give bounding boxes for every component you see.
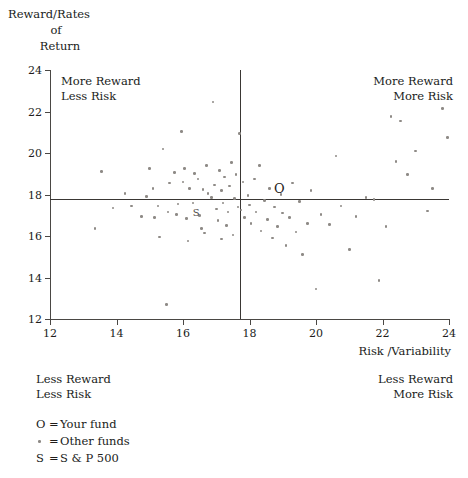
scatter-point [130, 205, 133, 208]
scatter-point [250, 222, 253, 225]
scatter-point [406, 173, 409, 176]
scatter-point [228, 185, 231, 188]
scatter-point [180, 130, 183, 133]
scatter-point [295, 231, 298, 234]
x-tick-label-18: 18 [235, 328, 265, 339]
x-tick-label-20: 20 [301, 328, 331, 339]
scatter-point [212, 101, 215, 104]
scatter-point [253, 178, 256, 181]
scatter-point [385, 225, 388, 228]
scatter-point [328, 223, 331, 226]
scatter-point [426, 210, 429, 213]
scatter-point [276, 225, 279, 228]
x-tick-label-14: 14 [102, 328, 132, 339]
legend-equals-sign: = [49, 416, 60, 433]
x-tick-14 [117, 319, 118, 325]
scatter-point [230, 161, 233, 164]
scatter-point [271, 237, 274, 240]
x-tick-label-12: 12 [35, 328, 65, 339]
scatter-point [242, 181, 245, 184]
scatter-point [266, 218, 269, 221]
scatter-point [291, 182, 294, 185]
scatter-point [210, 196, 213, 199]
scatter-point [207, 192, 210, 195]
scatter-point [446, 136, 449, 139]
y-axis-title: Reward/Rates of Return [8, 6, 168, 54]
legend-equals-sign: = [49, 450, 60, 467]
scatter-point [395, 160, 398, 163]
scatter-point [247, 194, 250, 197]
scatter-point [399, 120, 402, 123]
quadrant-label-top-left: More Reward Less Risk [61, 74, 141, 104]
scatter-point [301, 253, 304, 256]
scatter-point [248, 204, 251, 207]
crosshair-horizontal [50, 199, 449, 201]
scatter-point [220, 189, 223, 192]
chart-legend: O=Your fund=Other fundsS=S & P 500 [36, 416, 130, 467]
x-tick-label-24: 24 [434, 328, 464, 339]
scatter-point [173, 171, 176, 174]
x-tick-24 [449, 319, 450, 325]
scatter-point [348, 248, 351, 251]
scatter-point [215, 208, 218, 211]
legend-equals-sign: = [49, 433, 60, 450]
plot-area: 12141618202224 12141618202224 OS [50, 70, 449, 319]
scatter-point [263, 199, 266, 202]
scatter-point [255, 211, 258, 214]
scatter-point [140, 215, 143, 218]
scatter-point [240, 209, 243, 212]
quadrant-tr-line-2: More Risk [373, 89, 453, 104]
scatter-point [165, 303, 168, 306]
quadrant-tl-line-1: More Reward [61, 74, 141, 89]
x-tick-22 [383, 319, 384, 325]
scatter-point [225, 224, 228, 227]
scatter-point [187, 240, 190, 243]
y-tick-24 [45, 70, 51, 71]
y-tick-label-14: 14 [16, 273, 42, 284]
quadrant-tl-line-2: Less Risk [61, 89, 141, 104]
scatter-point [243, 216, 246, 219]
scatter-point [258, 164, 261, 167]
x-tick-label-16: 16 [168, 328, 198, 339]
scatter-point [238, 132, 241, 135]
scatter-point [188, 187, 191, 190]
x-tick-16 [183, 319, 184, 325]
x-tick-12 [50, 319, 51, 325]
scatter-point [200, 227, 203, 230]
legend-row: O=Your fund [36, 416, 130, 433]
scatter-point [340, 205, 343, 208]
legend-label: S & P 500 [60, 450, 119, 467]
y-tick-label-16: 16 [16, 231, 42, 242]
x-axis-title: Risk /Variability [359, 344, 451, 358]
scatter-point [222, 202, 225, 205]
scatter-point [310, 189, 313, 192]
scatter-point [175, 213, 178, 216]
y-axis-title-line-3: Return [8, 38, 112, 54]
sp500-marker: S [193, 208, 200, 218]
scatter-point [124, 192, 127, 195]
x-tick-label-22: 22 [368, 328, 398, 339]
y-tick-18 [45, 195, 51, 196]
legend-row: S=S & P 500 [36, 450, 130, 467]
scatter-point [233, 197, 236, 200]
quadrant-br-line-1: Less Reward [378, 372, 453, 387]
crosshair-vertical [240, 70, 242, 319]
legend-your-fund-icon: O [36, 416, 49, 433]
quadrant-br-line-2: More Risk [378, 387, 453, 402]
scatter-point [152, 187, 155, 190]
scatter-point [177, 203, 180, 206]
scatter-point [288, 216, 291, 219]
legend-sp500-icon: S [36, 450, 49, 467]
x-tick-18 [250, 319, 251, 325]
scatter-point [193, 172, 196, 175]
scatter-point [185, 217, 188, 220]
scatter-point [320, 213, 323, 216]
x-tick-20 [316, 319, 317, 325]
y-tick-label-20: 20 [16, 148, 42, 159]
scatter-point [158, 236, 161, 239]
your-fund-marker: O [274, 182, 285, 195]
scatter-point [182, 181, 185, 184]
scatter-point [205, 164, 208, 167]
scatter-point [148, 167, 151, 170]
scatter-point [192, 202, 195, 205]
